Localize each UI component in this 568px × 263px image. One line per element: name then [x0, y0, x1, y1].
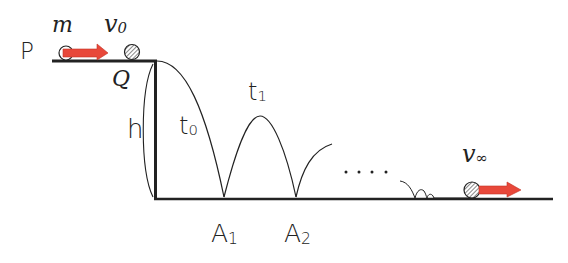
- label-t0-main: t: [179, 112, 188, 140]
- ellipsis-dots: [345, 171, 388, 174]
- label-v0-sub: 0: [118, 19, 127, 37]
- label-p: P: [20, 40, 34, 63]
- label-vinf-sub: ∞: [476, 149, 488, 167]
- label-a2-main: A: [284, 219, 301, 248]
- label-a2-sub: 2: [301, 230, 311, 248]
- ball-at-q: [125, 45, 140, 60]
- label-a1-sub: 1: [228, 230, 238, 248]
- bouncing-ball-diagram: P m v0 Q h t0 t1 A1 A2 v∞: [0, 0, 568, 263]
- label-v-infinity: v∞: [462, 142, 488, 166]
- label-q: Q: [112, 68, 130, 90]
- ball-final: [464, 182, 480, 198]
- label-a1-main: A: [211, 219, 228, 248]
- velocity-arrow-vinf: [479, 182, 521, 197]
- height-h-bracket: [143, 64, 153, 197]
- trajectory-small-bounces: [400, 181, 470, 198]
- label-v0: v0: [104, 12, 127, 36]
- trajectory-bounce-2: [296, 144, 332, 197]
- label-mass-m: m: [52, 14, 73, 36]
- label-t0: t0: [179, 114, 198, 138]
- label-t1: t1: [248, 80, 267, 104]
- label-t1-sub: 1: [257, 87, 266, 105]
- label-h: h: [127, 116, 143, 142]
- label-a2: A2: [284, 221, 311, 247]
- label-vinf-main: v: [462, 140, 476, 168]
- label-t1-main: t: [248, 78, 257, 106]
- label-v0-main: v: [104, 10, 118, 38]
- label-t0-sub: 0: [188, 121, 197, 139]
- trajectory-bounce-1: [224, 116, 296, 197]
- label-a1: A1: [211, 221, 238, 247]
